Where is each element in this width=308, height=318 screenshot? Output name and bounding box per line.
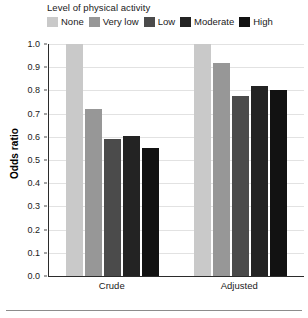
legend-title: Level of physical activity: [47, 2, 305, 14]
x-axis-tick-label: Adjusted: [176, 280, 304, 292]
legend-entry[interactable]: Low: [144, 16, 175, 27]
bar[interactable]: [251, 86, 268, 276]
y-axis-tick-mark: [44, 90, 47, 91]
y-axis-tick-mark: [44, 113, 47, 114]
y-axis-tick-mark: [44, 160, 47, 161]
plot-area: [48, 44, 304, 277]
y-axis-tick-label: 0.0: [27, 272, 40, 281]
legend-entry-label: Very low: [103, 16, 139, 27]
legend-swatch-icon: [144, 17, 155, 27]
legend-entry[interactable]: High: [239, 16, 273, 27]
legend-entry-label: Moderate: [194, 16, 234, 27]
bar-group: [49, 44, 177, 276]
y-axis-tick-labels: 1.00.90.80.70.60.50.40.30.20.10.0: [22, 44, 44, 276]
y-axis-tick-label: 0.7: [27, 109, 40, 118]
legend-items: NoneVery lowLowModerateHigh: [47, 16, 305, 27]
bar[interactable]: [66, 44, 83, 276]
bar[interactable]: [270, 90, 287, 276]
y-axis-tick-label: 0.9: [27, 63, 40, 72]
y-axis-tick-label: 0.4: [27, 179, 40, 188]
legend-entry-label: High: [253, 16, 273, 27]
bar-series-container: [49, 44, 304, 276]
y-axis-tick-label: 0.3: [27, 202, 40, 211]
bar[interactable]: [123, 136, 140, 276]
y-axis-tick-label: 0.5: [27, 156, 40, 165]
y-axis-tick-mark: [44, 276, 47, 277]
y-axis-tick-mark: [44, 67, 47, 68]
legend-entry-label: None: [61, 16, 84, 27]
y-axis-tick-mark: [44, 229, 47, 230]
bar[interactable]: [232, 96, 249, 276]
y-axis-tick-label: 0.6: [27, 132, 40, 141]
plot-wrapper: 1.00.90.80.70.60.50.40.30.20.10.0 CrudeA…: [22, 44, 304, 287]
y-axis-title: Odds ratio: [9, 119, 20, 189]
y-axis-tick-mark: [44, 183, 47, 184]
x-axis-tick-label: Crude: [48, 280, 176, 292]
y-axis-tick-mark: [44, 136, 47, 137]
bar[interactable]: [213, 63, 230, 276]
y-axis-tick-label: 0.2: [27, 225, 40, 234]
legend-entry[interactable]: Very low: [89, 16, 139, 27]
chart-legend: Level of physical activity NoneVery lowL…: [47, 2, 305, 27]
y-axis-tick-label: 0.8: [27, 86, 40, 95]
bar[interactable]: [194, 44, 211, 276]
legend-entry[interactable]: None: [47, 16, 84, 27]
legend-entry-label: Low: [158, 16, 175, 27]
legend-swatch-icon: [89, 17, 100, 27]
y-axis-tick-mark: [44, 252, 47, 253]
legend-swatch-icon: [239, 17, 250, 27]
y-axis-tick-label: 0.1: [27, 248, 40, 257]
legend-swatch-icon: [180, 17, 191, 27]
legend-swatch-icon: [47, 17, 58, 27]
y-axis-tick-mark: [44, 44, 47, 45]
y-axis-tick-label: 1.0: [27, 40, 40, 49]
bar[interactable]: [142, 148, 159, 276]
bar[interactable]: [104, 139, 121, 276]
x-axis-tick-labels: CrudeAdjusted: [48, 280, 303, 292]
legend-entry[interactable]: Moderate: [180, 16, 234, 27]
y-axis-tick-mark: [44, 206, 47, 207]
bar-group: [177, 44, 305, 276]
bottom-divider: [6, 310, 302, 311]
odds-ratio-bar-chart-figure: Level of physical activity NoneVery lowL…: [0, 0, 308, 318]
bar[interactable]: [85, 109, 102, 276]
